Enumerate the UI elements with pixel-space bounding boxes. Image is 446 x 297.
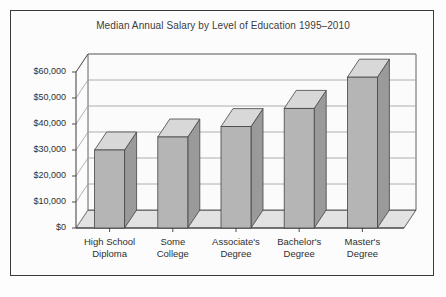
bar-front-face-0 [95, 150, 125, 228]
bar-front-face-4 [347, 77, 377, 228]
chart-figure: Median Annual Salary by Level of Educati… [0, 0, 446, 297]
y-axis-label-1: $10,000 [8, 196, 66, 206]
bar-side-face-4 [377, 59, 389, 228]
y-axis-label-5: $50,000 [8, 92, 66, 102]
x-axis-label-line: Degree [319, 248, 405, 260]
axis-depth-connector-5 [76, 80, 88, 98]
y-axis-label-3: $30,000 [8, 144, 66, 154]
bar-side-face-3 [314, 90, 326, 228]
bar-2 [221, 109, 263, 228]
bar-front-face-1 [158, 137, 188, 228]
wall-top-left-edge [76, 54, 88, 72]
axis-depth-connector-3 [76, 132, 88, 150]
bar-3 [284, 90, 326, 228]
bar-side-face-1 [188, 119, 200, 228]
y-axis-label-2: $20,000 [8, 170, 66, 180]
axis-depth-connector-2 [76, 158, 88, 176]
bar-front-face-3 [284, 108, 314, 228]
bar-4 [347, 59, 389, 228]
bar-1 [158, 119, 200, 228]
x-axis-label-4: Master'sDegree [319, 236, 405, 260]
axis-depth-connector-1 [76, 184, 88, 202]
x-axis-label-line: Master's [319, 236, 405, 248]
y-axis-label-6: $60,000 [8, 66, 66, 76]
bar-side-face-2 [251, 109, 263, 228]
bar-0 [95, 132, 137, 228]
bar-front-face-2 [221, 127, 251, 228]
axis-depth-connector-4 [76, 106, 88, 124]
y-axis-label-0: $0 [8, 222, 66, 232]
y-axis-label-4: $40,000 [8, 118, 66, 128]
